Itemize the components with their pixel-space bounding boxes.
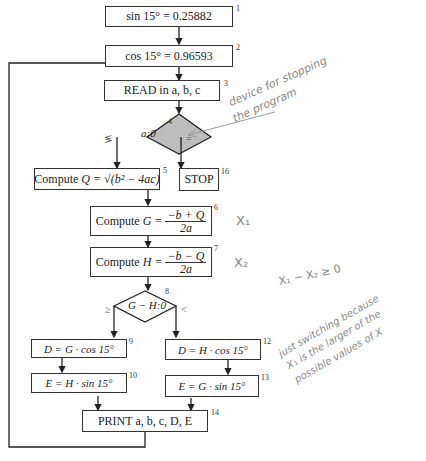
node-text: STOP <box>184 172 213 187</box>
node-text: sin 15° = 0.25882 <box>126 9 212 24</box>
node-text: PRINT a, b, c, D, E <box>98 414 192 429</box>
handwritten-note: X₂ <box>234 255 248 270</box>
node-stop: STOP <box>179 168 219 191</box>
node-compute-g: Compute G =−b + Q2a <box>90 206 212 236</box>
node-d-g: D = G · cos 15° <box>31 339 127 358</box>
decision-gh-label: G − H:0 <box>128 299 166 311</box>
node-prefix: Compute <box>96 255 140 270</box>
node-number: 5 <box>163 166 167 175</box>
denominator: 2a <box>180 222 192 234</box>
fraction: −b − Q2a <box>165 250 206 275</box>
node-number: 1 <box>236 4 240 13</box>
node-print: PRINT a, b, c, D, E <box>82 410 208 432</box>
node-number: 8 <box>165 287 169 296</box>
node-text: D = G · cos 15° <box>44 343 114 355</box>
node-number: 7 <box>214 244 218 253</box>
node-prefix: Compute <box>34 172 78 187</box>
node-text: READ in a, b, c <box>124 83 201 98</box>
node-lhs: G = <box>143 214 163 229</box>
numerator: −b + Q <box>165 209 206 222</box>
fraction: −b + Q2a <box>165 209 206 234</box>
node-cos15: cos 15° = 0.96593 <box>105 45 233 67</box>
node-number: 3 <box>224 79 228 88</box>
node-text: D = H · cos 15° <box>178 344 248 356</box>
node-e-g: E = G · sin 15° <box>165 375 259 397</box>
numerator: −b − Q <box>165 250 206 263</box>
node-sin15: sin 15° = 0.25882 <box>105 6 233 27</box>
branch-label: ≥ <box>105 304 111 315</box>
node-text: E = H · sin 15° <box>46 377 113 389</box>
node-text: cos 15° = 0.96593 <box>125 49 213 64</box>
node-read: READ in a, b, c <box>104 80 220 101</box>
node-number: 12 <box>263 337 271 346</box>
node-text: E = G · sin 15° <box>179 380 246 392</box>
node-d-h: D = H · cos 15° <box>165 339 261 360</box>
node-compute-q: Compute Q = √(b² − 4ac) <box>34 168 160 190</box>
node-e-h: E = H · sin 15° <box>31 373 127 393</box>
node-compute-h: Compute H =−b − Q2a <box>90 247 212 277</box>
node-prefix: Compute <box>96 214 140 229</box>
node-text: Q = √(b² − 4ac) <box>81 172 159 187</box>
node-number: 10 <box>129 371 137 380</box>
node-number: 4 <box>168 117 172 126</box>
branch-label: < <box>181 304 187 315</box>
decision-a-label: a:0 <box>141 127 156 139</box>
node-lhs: H = <box>143 255 163 270</box>
node-number: 2 <box>236 43 240 52</box>
branch-label: ≶ <box>104 133 112 144</box>
node-number: 16 <box>221 167 229 176</box>
node-number: 14 <box>211 408 219 417</box>
branch-label: = <box>186 133 192 144</box>
node-number: 13 <box>261 373 269 382</box>
handwritten-note: X₁ <box>236 213 250 228</box>
denominator: 2a <box>180 263 192 275</box>
node-number: 6 <box>214 203 218 212</box>
node-number: 9 <box>129 337 133 346</box>
